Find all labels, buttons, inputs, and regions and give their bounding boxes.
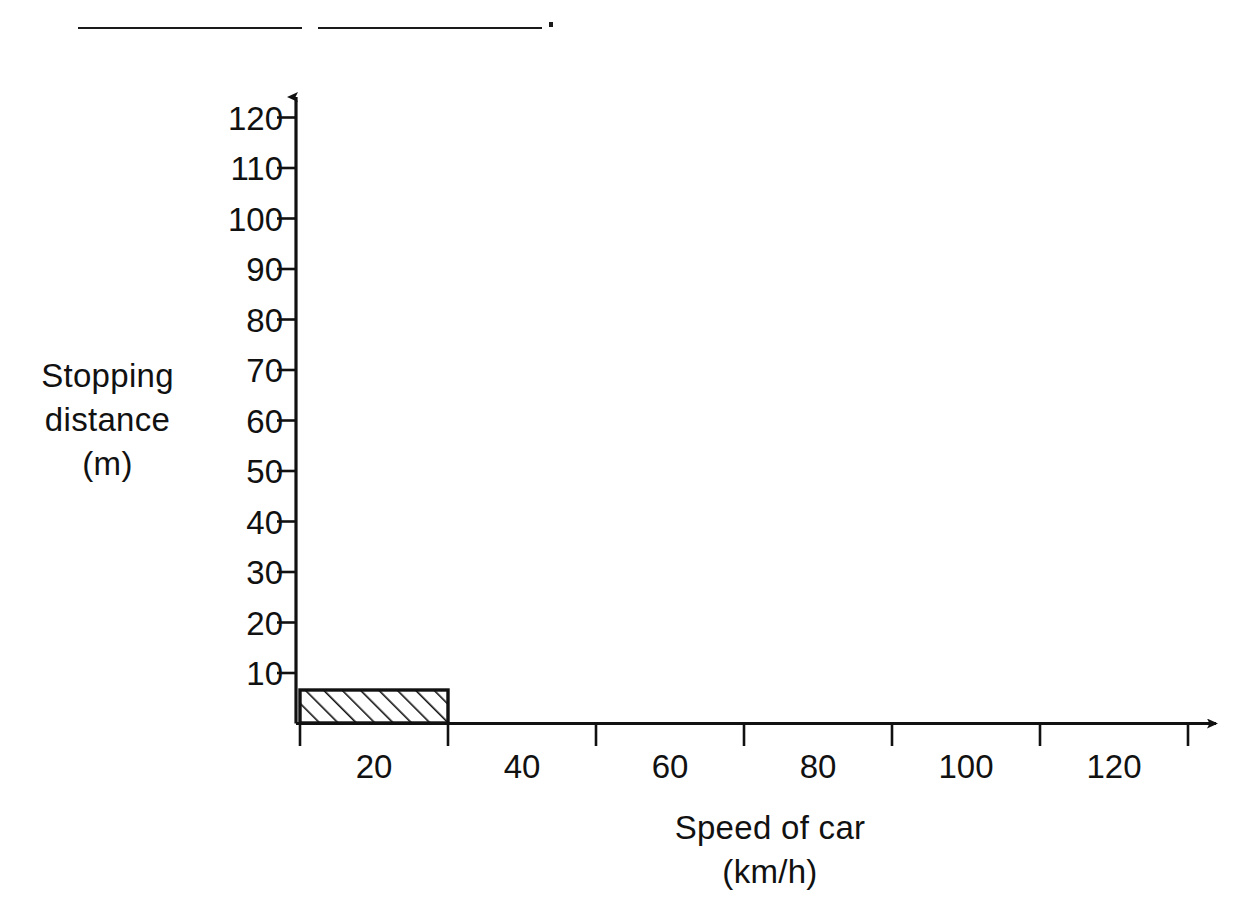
x-tick-label-80: 80 [800, 748, 837, 785]
y-tick-label-30: 30 [246, 554, 283, 591]
x-tick-label-40: 40 [504, 748, 541, 785]
histogram-bar-20[interactable] [300, 690, 448, 723]
y-tick-label-110: 110 [230, 150, 283, 187]
x-axis-tick-labels: 20 40 60 80 100 120 [356, 748, 1142, 785]
y-tick-label-70: 70 [246, 352, 283, 389]
worksheet-chart-page: Stopping distance (m) Speed of car (km/h… [0, 0, 1257, 901]
y-tick-label-10: 10 [246, 655, 283, 692]
y-tick-label-90: 90 [246, 251, 283, 288]
x-tick-label-20: 20 [356, 748, 393, 785]
histogram-plot: 10 20 30 40 50 60 70 80 90 100 110 120 2… [0, 0, 1257, 901]
y-tick-label-40: 40 [246, 504, 283, 541]
x-tick-label-100: 100 [938, 748, 993, 785]
y-tick-label-60: 60 [246, 403, 283, 440]
y-axis-tick-labels: 10 20 30 40 50 60 70 80 90 100 110 120 [228, 100, 283, 693]
y-tick-label-50: 50 [246, 453, 283, 490]
y-tick-label-120: 120 [228, 100, 283, 137]
y-tick-label-80: 80 [246, 302, 283, 339]
x-axis-ticks [300, 724, 1188, 747]
x-tick-label-60: 60 [652, 748, 689, 785]
y-tick-label-20: 20 [246, 605, 283, 642]
x-tick-label-120: 120 [1086, 748, 1141, 785]
y-tick-label-100: 100 [228, 201, 283, 238]
